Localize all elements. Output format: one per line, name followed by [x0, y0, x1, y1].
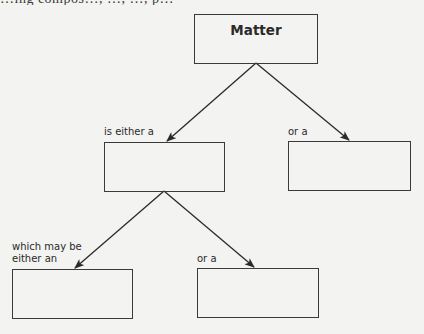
link-label-or-a-bottom: or a	[197, 253, 217, 265]
node-blank-3-answer-box[interactable]	[12, 269, 133, 319]
arrow-matter-to-blank-1	[167, 63, 256, 141]
node-blank-4-answer-box[interactable]	[197, 268, 319, 318]
link-label-which-may-be: which may be	[12, 241, 82, 253]
node-matter: Matter	[194, 14, 318, 64]
arrow-blank-1-to-blank-3	[75, 191, 164, 268]
node-blank-1-answer-box[interactable]	[104, 142, 225, 192]
link-label-either-an: either an	[12, 253, 57, 265]
node-blank-2-answer-box[interactable]	[288, 141, 411, 191]
link-label-is-either-a: is either a	[104, 126, 154, 138]
link-label-or-a-right: or a	[288, 126, 308, 138]
node-matter-label: Matter	[195, 22, 317, 38]
